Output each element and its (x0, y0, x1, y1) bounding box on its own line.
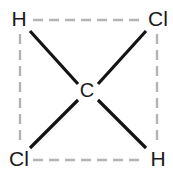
atom-label-top-left: H (11, 7, 26, 30)
bond-h-bottom-right (98, 100, 146, 148)
atom-label-center-carbon: C (80, 79, 94, 101)
bond-cl-bottom-left (30, 100, 78, 148)
bond-h-top-left (30, 31, 78, 84)
molecule-diagram: H Cl Cl H C (0, 0, 173, 177)
atom-label-top-right: Cl (148, 7, 168, 30)
atom-label-bottom-right: H (150, 147, 165, 170)
molecule-canvas: H Cl Cl H C (0, 0, 173, 177)
atom-label-bottom-left: Cl (9, 147, 29, 170)
bond-cl-top-right (98, 31, 146, 84)
